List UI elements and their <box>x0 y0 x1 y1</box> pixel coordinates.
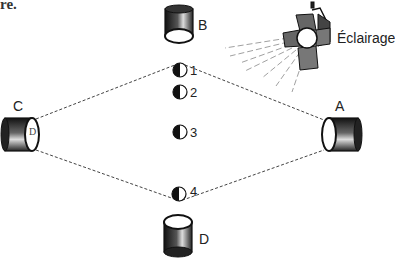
light-label: Éclairage <box>337 30 395 46</box>
camera-d-label: D <box>199 231 209 247</box>
camera-b-label: B <box>198 17 207 33</box>
moon-3-icon <box>173 125 187 139</box>
camera-c-lens-mark: D <box>29 126 36 137</box>
camera-b-icon <box>165 5 193 43</box>
camera-a-label: A <box>335 98 344 114</box>
moon-4-icon <box>172 187 186 201</box>
camera-d-icon <box>164 215 192 257</box>
spotlight-icon <box>283 2 330 70</box>
camera-c-label: C <box>13 98 23 114</box>
moon-2-label: 2 <box>190 85 197 100</box>
caption-fragment: re. <box>0 0 17 13</box>
moon-4-label: 4 <box>190 184 197 199</box>
moon-1-icon <box>173 63 187 77</box>
moon-1-label: 1 <box>190 63 197 78</box>
moon-2-icon <box>173 85 187 99</box>
moon-3-label: 3 <box>190 125 197 140</box>
camera-a-icon <box>322 118 362 151</box>
